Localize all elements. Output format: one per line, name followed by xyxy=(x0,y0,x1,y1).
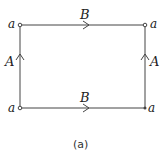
edge-label-top: B xyxy=(79,7,90,22)
vertex-top-left xyxy=(18,23,22,27)
edge-label-left: A xyxy=(4,54,14,69)
edge-label-right: A xyxy=(149,54,159,69)
vertex-label-top-right: a xyxy=(150,17,157,31)
vertex-label-top-left: a xyxy=(8,17,15,31)
vertex-bottom-right xyxy=(144,107,147,110)
vertex-label-bottom-right: a xyxy=(148,101,155,115)
vertex-bottom-left xyxy=(18,106,22,110)
vertex-top-right xyxy=(143,23,147,27)
edge-label-bottom: B xyxy=(79,90,90,105)
vertex-label-bottom-left: a xyxy=(8,101,15,115)
caption: (a) xyxy=(73,138,88,151)
fundamental-polygon-diagram: a a a a B B A A (a) xyxy=(0,0,167,157)
